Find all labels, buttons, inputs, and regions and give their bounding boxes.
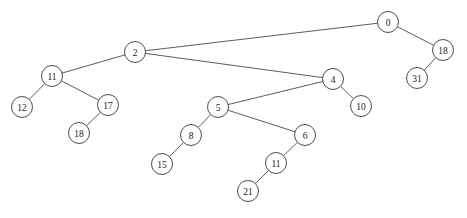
tree-node[interactable]: 6 bbox=[295, 125, 316, 146]
node-label: 10 bbox=[356, 102, 366, 112]
node-label: 4 bbox=[331, 75, 336, 85]
node-label: 21 bbox=[243, 187, 253, 197]
tree-edge bbox=[341, 86, 354, 98]
node-label: 18 bbox=[438, 46, 448, 56]
node-label: 11 bbox=[47, 72, 56, 82]
node-label: 5 bbox=[216, 103, 221, 113]
tree-node[interactable]: 17 bbox=[98, 95, 119, 116]
node-label: 18 bbox=[74, 129, 84, 139]
tree-edge bbox=[29, 84, 44, 100]
node-label: 0 bbox=[386, 18, 391, 28]
tree-edge bbox=[228, 110, 295, 132]
tree-edge bbox=[424, 58, 436, 71]
node-label: 12 bbox=[17, 103, 27, 113]
tree-edge bbox=[61, 81, 98, 100]
tree-node[interactable]: 2 bbox=[125, 42, 146, 63]
tree-edge bbox=[145, 23, 377, 51]
tree-node[interactable]: 0 bbox=[378, 12, 399, 33]
tree-edge bbox=[228, 81, 323, 104]
tree-node[interactable]: 15 bbox=[152, 154, 173, 175]
tree-node[interactable]: 12 bbox=[12, 97, 33, 118]
tree-diagram: 01831211121718410581561121 bbox=[0, 0, 467, 218]
node-label: 2 bbox=[133, 48, 138, 58]
node-label: 17 bbox=[103, 101, 113, 111]
tree-edge bbox=[145, 53, 322, 77]
tree-edge bbox=[198, 115, 210, 128]
node-label: 15 bbox=[157, 160, 167, 170]
node-label: 6 bbox=[303, 131, 308, 141]
tree-node[interactable]: 11 bbox=[266, 153, 287, 174]
tree-node[interactable]: 8 bbox=[181, 125, 202, 146]
tree-node[interactable]: 5 bbox=[208, 97, 229, 118]
tree-edge bbox=[397, 27, 433, 45]
tree-edge bbox=[284, 142, 298, 155]
tree-node[interactable]: 21 bbox=[238, 181, 259, 202]
tree-node[interactable]: 18 bbox=[433, 40, 454, 61]
tree-edge bbox=[62, 55, 125, 73]
tree-canvas: 01831211121718410581561121 bbox=[0, 0, 467, 218]
node-label: 11 bbox=[271, 159, 280, 169]
tree-edge bbox=[169, 142, 183, 156]
tree-node[interactable]: 11 bbox=[42, 66, 63, 87]
node-label: 8 bbox=[189, 131, 194, 141]
tree-edge bbox=[255, 170, 268, 183]
node-label: 31 bbox=[412, 74, 422, 84]
tree-node[interactable]: 4 bbox=[323, 69, 344, 90]
tree-node[interactable]: 10 bbox=[351, 96, 372, 117]
edges-layer bbox=[29, 23, 436, 183]
tree-node[interactable]: 31 bbox=[407, 68, 428, 89]
tree-edge bbox=[87, 112, 101, 125]
tree-node[interactable]: 18 bbox=[69, 123, 90, 144]
